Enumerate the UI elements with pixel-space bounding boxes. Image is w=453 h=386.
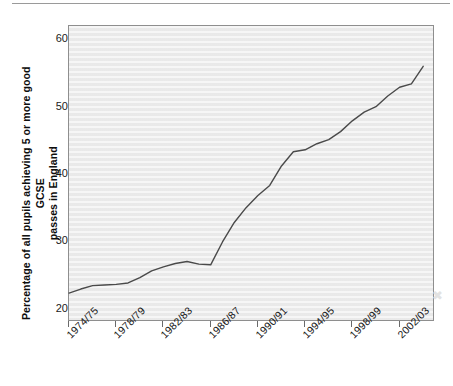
y-tick-label: 40 — [42, 168, 68, 179]
y-axis: 2030405060 — [36, 0, 68, 386]
data-series-line — [69, 26, 435, 322]
y-tick-label: 20 — [42, 302, 68, 313]
y-tick-label: 30 — [42, 235, 68, 246]
line-chart: Percentage of all pupils achieving 5 or … — [0, 0, 453, 386]
plot-area — [68, 25, 434, 321]
series-polyline — [69, 66, 423, 293]
y-tick-label: 60 — [42, 33, 68, 44]
page-root: Percentage of all pupils achieving 5 or … — [0, 0, 453, 386]
y-tick-label: 50 — [42, 100, 68, 111]
